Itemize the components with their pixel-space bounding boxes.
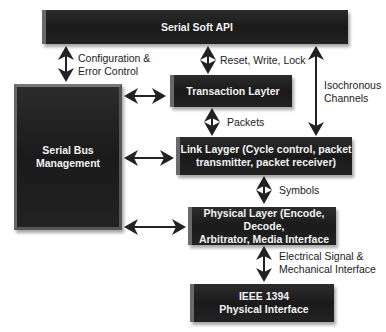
- physical-layer-box: Physical Layer (Encode, Decode, Arbitrat…: [188, 207, 336, 245]
- symbols-label: Symbols: [279, 184, 319, 197]
- link-layer-box: Link Layger (Cycle control, packet trans…: [176, 137, 352, 175]
- serial-bus-management-line1: Serial Bus: [42, 144, 93, 157]
- elec-line2: Mechanical Interface: [279, 263, 376, 276]
- physical-layer-line2: Arbitrator, Media Interface: [199, 233, 329, 246]
- transaction-layer-box: Transaction Layter: [170, 75, 292, 107]
- link-layer-line2: transmitter, packet receiver): [196, 156, 336, 169]
- elec-line1: Electrical Signal &: [279, 250, 376, 263]
- serial-soft-api-box: Serial Soft API: [42, 10, 348, 44]
- link-layer-line1: Link Layger (Cycle control, packet: [181, 143, 352, 156]
- ieee-1394-line1: IEEE 1394: [239, 290, 289, 303]
- config-error-label: Configuration & Error Control: [78, 52, 150, 78]
- config-line1: Configuration &: [78, 52, 150, 65]
- config-line2: Error Control: [78, 65, 150, 78]
- reset-write-lock-label: Reset, Write, Lock: [220, 54, 306, 67]
- ieee-1394-box: IEEE 1394 Physical Interface: [190, 284, 334, 322]
- serial-bus-management-box: Serial Bus Management: [14, 84, 122, 230]
- isochronous-label: Isochronous Channels: [324, 79, 381, 105]
- electrical-mechanical-label: Electrical Signal & Mechanical Interface: [279, 250, 376, 276]
- iso-line2: Channels: [324, 92, 381, 105]
- transaction-layer-label: Transaction Layter: [186, 85, 279, 98]
- iso-line1: Isochronous: [324, 79, 381, 92]
- serial-bus-management-line2: Management: [36, 157, 100, 170]
- physical-layer-line1: Physical Layer (Encode, Decode,: [192, 207, 336, 233]
- serial-soft-api-label: Serial Soft API: [161, 21, 233, 34]
- packets-label: Packets: [227, 116, 264, 129]
- ieee-1394-line2: Physical Interface: [219, 303, 308, 316]
